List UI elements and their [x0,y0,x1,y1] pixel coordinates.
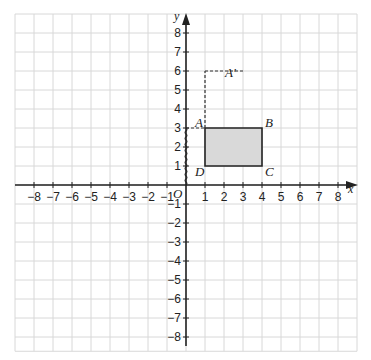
y-tick-label: −4 [167,254,181,268]
x-tick-label: −8 [27,190,41,204]
x-tick-label: 6 [297,190,304,204]
y-axis-arrow-icon [182,13,190,25]
x-tick-label: −5 [84,190,98,204]
x-tick-label: −6 [65,190,79,204]
point-label-a: A [194,115,203,130]
y-tick-label: −6 [167,292,181,306]
y-tick-label: −7 [167,311,181,325]
coordinate-grid-diagram: −8−7−6−5−4−3−2−11234567887654321−1−2−3−4… [0,0,371,360]
y-tick-label: 2 [174,140,181,154]
x-tick-label: −2 [141,190,155,204]
y-tick-label: 5 [174,83,181,97]
point-label-c: C [265,164,274,179]
x-axis-label: x [347,182,354,196]
x-tick-label: 8 [335,190,342,204]
point-label-d: D [194,164,205,179]
origin-label: O [173,186,183,201]
y-axis-label: y [173,9,180,23]
axes [15,13,358,346]
y-tick-label: 7 [174,45,181,59]
point-label-b: B [265,115,273,130]
rectangle-abcd [205,128,262,166]
y-tick-label: 1 [174,159,181,173]
y-tick-label: −5 [167,273,181,287]
x-tick-label: 4 [259,190,266,204]
x-tick-label: 7 [316,190,323,204]
rectangle-shape [205,128,262,166]
x-tick-label: 1 [202,190,209,204]
x-tick-label: −3 [122,190,136,204]
y-tick-label: 4 [174,102,181,116]
y-tick-label: 8 [174,26,181,40]
y-tick-label: −8 [167,330,181,344]
point-label-a-prime: A′ [224,65,236,80]
x-tick-label: 5 [278,190,285,204]
x-tick-label: −4 [103,190,117,204]
x-tick-label: 3 [240,190,247,204]
x-tick-label: 2 [221,190,228,204]
x-tick-label: −7 [46,190,60,204]
y-tick-label: −2 [167,216,181,230]
y-tick-label: 3 [174,121,181,135]
y-tick-label: 6 [174,64,181,78]
y-tick-label: −3 [167,235,181,249]
